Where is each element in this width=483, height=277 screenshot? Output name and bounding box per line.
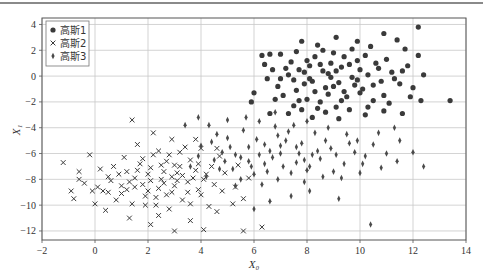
data-point (226, 135, 229, 142)
data-point (319, 155, 322, 162)
legend-label-1: 高斯1 (60, 24, 86, 36)
data-point (267, 111, 272, 116)
data-point (167, 207, 172, 212)
data-point (312, 89, 317, 94)
data-point (308, 188, 311, 195)
data-point (273, 97, 278, 102)
data-point (278, 52, 283, 57)
data-point (172, 183, 177, 188)
data-point (265, 76, 270, 81)
data-point (345, 131, 348, 138)
data-point (252, 171, 255, 178)
x-tick-label: 2 (146, 245, 151, 256)
y-tick-label: 2 (31, 45, 36, 56)
data-point (130, 118, 135, 123)
data-point (307, 76, 312, 81)
data-point (400, 68, 405, 73)
data-point (101, 189, 106, 194)
data-point (140, 182, 145, 187)
x-tick-label: 12 (408, 245, 418, 256)
data-point (222, 170, 227, 175)
data-point (358, 170, 361, 177)
data-point (392, 76, 397, 81)
data-point (289, 59, 294, 64)
data-point (307, 63, 312, 68)
data-point (328, 75, 333, 80)
data-point (397, 81, 402, 86)
data-point (169, 137, 174, 142)
data-point (116, 172, 121, 177)
data-point (119, 191, 124, 196)
data-point (247, 158, 250, 165)
data-point (148, 222, 153, 227)
data-point (236, 163, 241, 168)
data-point (385, 150, 388, 157)
data-point (389, 70, 394, 75)
data-point (331, 84, 336, 89)
data-point (379, 79, 384, 84)
data-point (291, 77, 296, 82)
data-point (286, 111, 291, 116)
data-point (398, 137, 401, 144)
data-point (215, 209, 220, 214)
data-point (226, 117, 229, 124)
data-point (356, 137, 359, 144)
data-point (106, 174, 111, 179)
data-point (148, 165, 153, 170)
data-point (421, 72, 426, 77)
series-3 (184, 109, 426, 228)
data-point (275, 84, 280, 89)
data-point (193, 168, 198, 173)
data-point (162, 181, 167, 186)
data-point (349, 75, 354, 80)
x-axis-label: X₀ (248, 258, 260, 270)
data-point (335, 152, 338, 159)
data-point (156, 213, 161, 218)
data-point (302, 70, 307, 75)
data-point (337, 195, 340, 202)
data-point (355, 58, 360, 63)
data-point (218, 166, 221, 173)
data-point (381, 108, 386, 113)
data-point (344, 94, 349, 99)
data-point (310, 115, 315, 120)
data-point (342, 54, 347, 59)
data-point (268, 198, 271, 205)
data-point (156, 149, 161, 154)
data-point (371, 98, 376, 103)
y-tick-label: −4 (25, 122, 36, 133)
x-tick-label: 6 (252, 245, 257, 256)
data-point (188, 218, 193, 223)
data-point (284, 137, 287, 144)
data-point (334, 104, 339, 109)
data-point (103, 208, 108, 213)
data-point (372, 141, 375, 148)
data-point (371, 83, 376, 88)
data-point (400, 111, 405, 116)
legend-marker-1 (50, 27, 55, 32)
data-point (353, 149, 356, 156)
data-point (308, 163, 311, 170)
data-point (251, 90, 256, 95)
data-point (377, 130, 380, 137)
data-point (274, 123, 277, 130)
data-point (197, 114, 200, 121)
scatter-chart: −202468101214 −12−10−8−6−4−2024 X₀ X₁ 高斯… (0, 0, 483, 277)
data-point (77, 169, 82, 174)
data-point (408, 94, 413, 99)
data-point (252, 206, 255, 213)
data-point (263, 141, 266, 148)
data-point (402, 46, 407, 51)
data-point (172, 163, 177, 168)
data-point (132, 185, 137, 190)
data-point (313, 130, 316, 137)
data-point (127, 180, 132, 185)
data-point (320, 48, 325, 53)
data-point (193, 137, 198, 142)
data-point (278, 76, 283, 81)
data-point (296, 67, 301, 72)
data-point (215, 146, 220, 151)
data-point (271, 154, 274, 161)
data-point (276, 132, 279, 139)
data-point (363, 53, 368, 58)
